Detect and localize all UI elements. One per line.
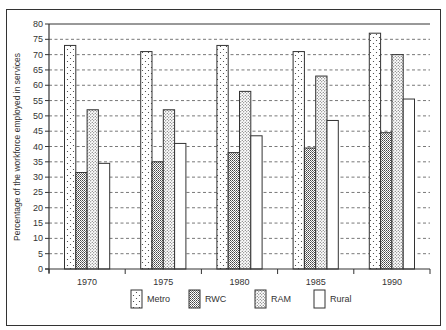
y-tick-label: 45 (33, 126, 43, 136)
y-tick-label: 5 (38, 249, 43, 259)
y-tick-label: 60 (33, 80, 43, 90)
bar-ram-1990 (392, 55, 403, 269)
bar-rural-1970 (98, 163, 109, 269)
y-tick-label: 75 (33, 34, 43, 44)
legend-label-metro: Metro (147, 294, 170, 304)
legend-label-rural: Rural (330, 294, 352, 304)
legend: MetroRWCRAMRural (131, 290, 352, 308)
y-tick-label: 10 (33, 233, 43, 243)
bar-metro-1970 (65, 45, 76, 269)
x-tick-label: 1975 (153, 277, 173, 287)
y-tick-label: 80 (33, 19, 43, 29)
bar-rwc-1990 (381, 133, 392, 269)
legend-label-rwc: RWC (205, 294, 227, 304)
bar-metro-1985 (293, 52, 304, 269)
bar-rural-1980 (251, 136, 262, 269)
bar-rural-1990 (403, 99, 414, 269)
bar-metro-1990 (369, 33, 380, 269)
bar-rural-1985 (327, 120, 338, 269)
legend-label-ram: RAM (271, 294, 291, 304)
bar-ram-1975 (163, 110, 174, 269)
legend-swatch-rwc (189, 290, 200, 308)
bar-metro-1980 (217, 45, 228, 269)
legend-swatch-metro (131, 290, 142, 308)
legend-swatch-rural (314, 290, 325, 308)
bar-metro-1975 (141, 52, 152, 269)
y-tick-label: 30 (33, 172, 43, 182)
bar-ram-1985 (316, 76, 327, 269)
x-tick-label: 1990 (382, 277, 402, 287)
y-tick-label: 55 (33, 96, 43, 106)
bar-chart: 0510152025303540455055606570758019701975… (0, 0, 446, 330)
y-axis-title: Percentage of the workforce employed in … (12, 53, 22, 241)
bar-ram-1970 (87, 110, 98, 269)
y-tick-label: 15 (33, 218, 43, 228)
bar-rwc-1975 (152, 162, 163, 269)
y-tick-label: 25 (33, 187, 43, 197)
y-tick-label: 50 (33, 111, 43, 121)
bar-rwc-1985 (304, 148, 315, 269)
bars (65, 33, 415, 269)
y-tick-label: 0 (38, 264, 43, 274)
y-tick-label: 65 (33, 65, 43, 75)
y-tick-label: 40 (33, 142, 43, 152)
y-tick-label: 35 (33, 157, 43, 167)
bar-ram-1980 (240, 91, 251, 269)
x-tick-label: 1980 (229, 277, 249, 287)
y-tick-label: 70 (33, 50, 43, 60)
x-tick-label: 1985 (306, 277, 326, 287)
x-tick-label: 1970 (77, 277, 97, 287)
y-tick-label: 20 (33, 203, 43, 213)
legend-swatch-ram (255, 290, 266, 308)
bar-rural-1975 (175, 143, 186, 269)
bar-rwc-1970 (76, 173, 87, 269)
bar-rwc-1980 (228, 153, 239, 269)
